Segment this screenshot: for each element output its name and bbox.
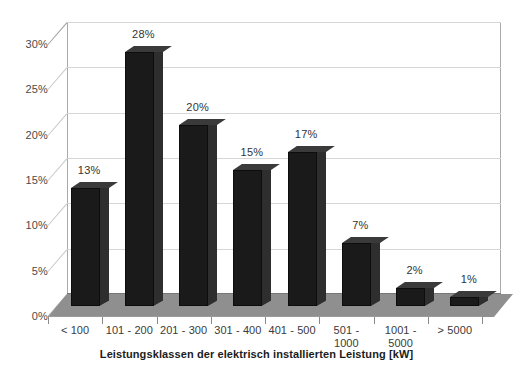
x-axis-tick-mark: [265, 317, 266, 324]
bar-front-face: [288, 152, 317, 306]
bar-front-face: [450, 297, 479, 306]
bar-front-face: [396, 288, 425, 306]
x-axis-tick-mark: [211, 317, 212, 324]
x-axis-tick-mark: [428, 317, 429, 324]
plot-area: 13%28%20%15%17%7%2%1%: [48, 0, 513, 368]
x-axis-tick-label: 401 - 500: [262, 324, 322, 337]
bar-side-face: [371, 237, 380, 306]
bar-2: [125, 52, 154, 306]
x-axis-tick-mark: [319, 317, 320, 324]
floor-panel: [48, 294, 513, 317]
bar-7: [396, 288, 425, 306]
bar-front-face: [342, 243, 371, 306]
y-axis-tick-label: 10%: [2, 219, 48, 231]
x-axis-tick-mark: [102, 317, 103, 324]
x-axis-tick-label: 501 -1000: [316, 324, 376, 350]
y-axis-tick-label: 25%: [2, 83, 48, 95]
bar-front-face: [233, 170, 262, 306]
x-axis-tick-label: 301 - 400: [208, 324, 268, 337]
x-axis-tick-mark: [482, 317, 483, 324]
x-axis-tick-label: < 100: [45, 324, 105, 337]
bar-3: [179, 125, 208, 306]
bar-data-label: 17%: [295, 128, 318, 140]
bar-front-face: [71, 188, 100, 306]
bar-front-face: [125, 52, 154, 306]
x-axis-tick-mark: [48, 317, 49, 324]
bar-1: [71, 188, 100, 306]
bar-8: [450, 297, 479, 306]
bar-side-face: [262, 165, 271, 306]
bar-data-label: 20%: [186, 101, 209, 113]
x-axis-tick-label: 201 - 300: [154, 324, 214, 337]
bar-side-face: [208, 119, 217, 306]
bar-5: [288, 152, 317, 306]
bar-data-label: 13%: [78, 164, 101, 176]
y-axis-tick-label: 30%: [2, 38, 48, 50]
x-axis-baseline: [48, 316, 482, 317]
bar-6: [342, 243, 371, 306]
x-axis-tick-label: 101 - 200: [99, 324, 159, 337]
y-axis-tick-label: 5%: [2, 265, 48, 277]
bar-data-label: 28%: [132, 28, 155, 40]
x-axis-tick-mark: [157, 317, 158, 324]
y-axis-tick-label: 15%: [2, 174, 48, 186]
y-axis-tick-label: 0%: [2, 310, 48, 322]
bar-side-face: [154, 47, 163, 306]
bar-data-label: 2%: [406, 264, 422, 276]
x-axis-tick-mark: [374, 317, 375, 324]
x-axis-title: Leistungsklassen der elektrisch installi…: [0, 348, 513, 360]
bar-4: [233, 170, 262, 306]
chart-container: 0%5%10%15%20%25%30% 13%28%20%15%17%7%2%1…: [0, 0, 513, 368]
bar-top-face: [288, 146, 335, 152]
bar-top-face: [342, 237, 389, 243]
bar-side-face: [317, 147, 326, 306]
bar-side-face: [100, 183, 109, 306]
gridline: [67, 22, 501, 23]
y-axis: 0%5%10%15%20%25%30%: [0, 0, 48, 368]
x-axis-tick-label: 1001 -5000: [371, 324, 431, 350]
bar-data-label: 7%: [352, 219, 368, 231]
left-wall-panel: [48, 10, 68, 316]
bar-data-label: 15%: [241, 146, 264, 158]
bar-front-face: [179, 125, 208, 306]
x-axis-tick-label: > 5000: [425, 324, 485, 337]
bar-data-label: 1%: [461, 273, 477, 285]
y-axis-tick-label: 20%: [2, 129, 48, 141]
